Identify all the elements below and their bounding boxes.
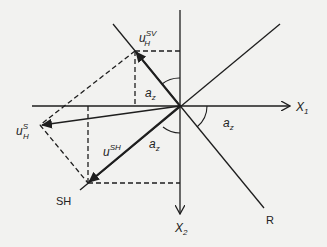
vector-decomposition-diagram: uSVH uSH uSH az az az X1 X2 SH R (0, 0, 327, 247)
x1-axis-label: X1 (295, 100, 308, 116)
u-sv-label: uSVH (139, 29, 157, 48)
angle-label-right: az (223, 116, 234, 132)
angle-label-upper: az (145, 86, 156, 102)
x2-axis-label: X2 (174, 221, 188, 237)
r-line-label: R (266, 214, 274, 226)
angle-label-lower: az (149, 137, 160, 153)
u-s-label: uSH (16, 122, 29, 141)
sh-line-label: SH (56, 195, 71, 207)
